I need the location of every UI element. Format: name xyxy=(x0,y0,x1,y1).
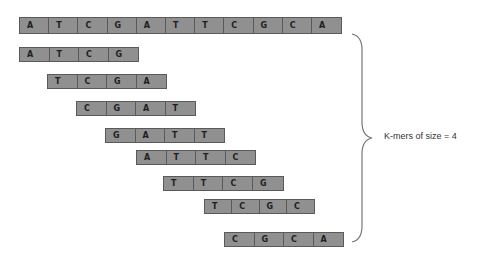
nucleotide-cell: G xyxy=(255,233,285,246)
nucleotide-cell: G xyxy=(106,129,136,142)
nucleotide-cell: A xyxy=(136,102,166,115)
nucleotide-cell: C xyxy=(226,151,256,164)
kmer-strip-8: CGCA xyxy=(224,232,344,247)
nucleotide-cell: C xyxy=(78,75,108,88)
kmer-strip-6: TTCG xyxy=(163,176,284,191)
nucleotide-cell: T xyxy=(165,129,195,142)
nucleotide-cell: G xyxy=(260,200,287,213)
nucleotide-cell: C xyxy=(284,233,314,246)
kmer-strip-3: CGAT xyxy=(76,101,196,116)
nucleotide-cell: A xyxy=(314,233,344,246)
nucleotide-cell: A xyxy=(136,129,166,142)
nucleotide-cell: T xyxy=(49,18,78,33)
nucleotide-cell: C xyxy=(223,177,253,190)
nucleotide-cell: G xyxy=(254,18,283,33)
nucleotide-cell: A xyxy=(137,151,167,164)
nucleotide-cell: T xyxy=(164,177,194,190)
nucleotide-cell: C xyxy=(78,18,107,33)
kmer-strip-2: TCGA xyxy=(47,74,167,89)
nucleotide-cell: A xyxy=(137,18,166,33)
nucleotide-cell: T xyxy=(194,177,224,190)
nucleotide-cell: T xyxy=(195,129,225,142)
kmer-strip-1: ATCG xyxy=(19,47,139,62)
nucleotide-cell: A xyxy=(20,18,49,33)
nucleotide-cell: G xyxy=(108,18,137,33)
full-sequence-strip: ATCGATTCGCA xyxy=(19,17,342,34)
nucleotide-cell: C xyxy=(287,200,314,213)
nucleotide-cell: C xyxy=(283,18,312,33)
nucleotide-cell: T xyxy=(50,48,80,61)
nucleotide-cell: A xyxy=(137,75,167,88)
nucleotide-cell: G xyxy=(253,177,283,190)
nucleotide-cell: C xyxy=(79,48,109,61)
nucleotide-cell: G xyxy=(107,75,137,88)
nucleotide-cell: T xyxy=(196,151,226,164)
nucleotide-cell: T xyxy=(167,151,197,164)
nucleotide-cell: C xyxy=(224,18,253,33)
nucleotide-cell: T xyxy=(195,18,224,33)
nucleotide-cell: T xyxy=(48,75,78,88)
nucleotide-cell: G xyxy=(107,102,137,115)
kmer-strip-7: TCGC xyxy=(204,199,315,214)
nucleotide-cell: T xyxy=(166,102,196,115)
curly-brace-icon xyxy=(348,30,378,250)
nucleotide-cell: G xyxy=(109,48,139,61)
kmer-size-label: K-mers of size = 4 xyxy=(384,131,457,141)
nucleotide-cell: A xyxy=(20,48,50,61)
nucleotide-cell: A xyxy=(312,18,341,33)
kmer-strip-5: ATTC xyxy=(136,150,256,165)
kmer-strip-4: GATT xyxy=(105,128,225,143)
nucleotide-cell: T xyxy=(205,200,232,213)
nucleotide-cell: C xyxy=(225,233,255,246)
nucleotide-cell: C xyxy=(77,102,107,115)
nucleotide-cell: T xyxy=(166,18,195,33)
nucleotide-cell: C xyxy=(232,200,259,213)
